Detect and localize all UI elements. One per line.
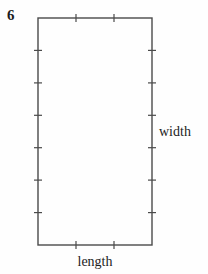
label-width: width bbox=[159, 125, 191, 139]
figure-canvas: 6 w bbox=[0, 0, 208, 274]
rectangle-outline bbox=[38, 18, 152, 245]
label-length: length bbox=[0, 255, 190, 269]
